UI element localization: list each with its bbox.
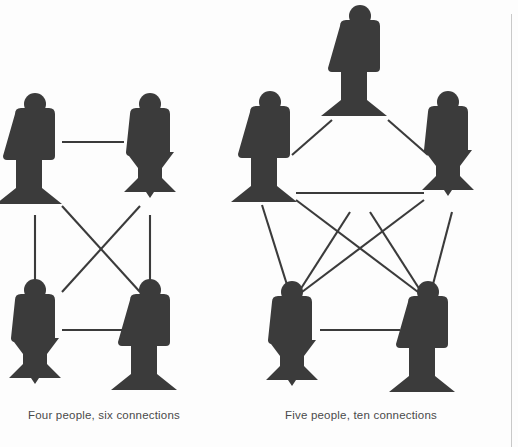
panel-four-people — [0, 93, 177, 390]
people-icons-five — [231, 5, 474, 392]
person-icon — [266, 281, 318, 386]
page-rule-divider — [511, 14, 512, 447]
caption-four-people: Four people, six connections — [28, 409, 180, 421]
caption-five-people: Five people, ten connections — [285, 409, 437, 421]
person-icon — [389, 281, 455, 392]
person-icon — [231, 91, 297, 202]
person-icon — [124, 93, 176, 198]
person-icon — [422, 91, 474, 196]
connection-q3-q5 — [432, 212, 452, 288]
person-icon — [9, 279, 61, 384]
connection-q1-q5 — [370, 212, 420, 290]
connection-q1-q3 — [388, 120, 428, 155]
connection-q2-q4 — [262, 205, 288, 288]
person-icon — [0, 93, 62, 204]
person-icon — [321, 5, 387, 116]
network-diagram — [0, 0, 518, 447]
connection-q1-q2 — [292, 120, 332, 155]
panel-five-people — [231, 5, 474, 392]
connection-q1-q4 — [300, 212, 350, 290]
figure-page: Four people, six connections Five people… — [0, 0, 518, 447]
connection-q2-q5 — [296, 200, 418, 292]
person-icon — [111, 279, 177, 390]
connection-q3-q4 — [302, 200, 424, 292]
